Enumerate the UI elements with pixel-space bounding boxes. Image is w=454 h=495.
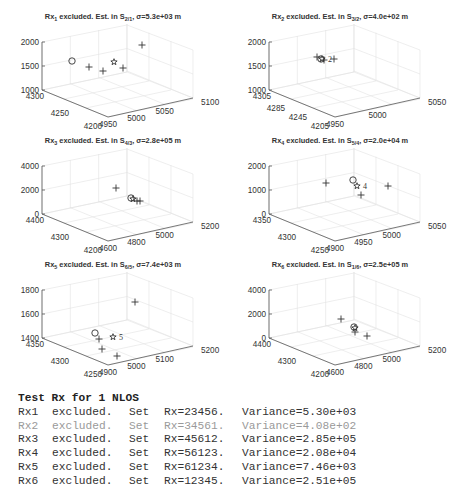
status-text: excluded.	[52, 461, 129, 475]
plot-3d-axes: 2000150010004305428542454205495050005050…	[227, 0, 454, 124]
axis-lines	[269, 42, 420, 117]
status-text: excluded.	[52, 447, 129, 461]
receiver-marker	[364, 333, 371, 340]
set-value: Rx=34561.	[164, 420, 242, 434]
y-tick-label: 4305	[253, 92, 272, 101]
z-tick-label: 1500	[248, 62, 267, 71]
plot-panel-rx5: 1800160014004350430042504900500051005200…	[0, 248, 227, 372]
z-tick-label: 1600	[21, 310, 40, 319]
x-tick-label: 4800	[127, 238, 146, 247]
set-keyword: Set	[129, 406, 164, 420]
x-tick-label: 4950	[354, 238, 373, 247]
panel-title: Rx5 excluded. Est. in S6/5, σ=7.4e+03 m	[45, 260, 182, 270]
console-rows: Rx1excluded.SetRx=23456.Variance=5.30e+0…	[18, 406, 448, 489]
receiver-marker	[96, 336, 103, 343]
x-tick-label: 5000	[127, 114, 146, 123]
x-tick-label: 5000	[156, 231, 175, 240]
z-tick-label: 4000	[21, 162, 40, 171]
rx-label: Rx5	[18, 461, 52, 475]
set-keyword: Set	[129, 420, 164, 434]
set-keyword: Set	[129, 475, 164, 489]
x-tick-label: 4800	[354, 362, 373, 371]
z-tick-label: 2000	[21, 38, 40, 47]
receiver-marker	[314, 54, 321, 61]
x-tick-label: 5000	[127, 362, 146, 371]
receiver-marker	[385, 183, 392, 190]
receiver-marker	[114, 353, 121, 360]
plot-panel-rx3: 4000200004400430042004600480050005200Rx3…	[0, 124, 227, 248]
status-text: excluded.	[52, 420, 129, 434]
variance-value: Variance=4.08e+02	[242, 420, 356, 434]
console-row: Rx3excluded.SetRx=45612.Variance=2.85e+0…	[18, 433, 448, 447]
axis-lines	[42, 166, 193, 241]
set-keyword: Set	[129, 461, 164, 475]
variance-value: Variance=5.30e+03	[242, 406, 356, 420]
y-tick-label: 4300	[278, 357, 297, 366]
receiver-marker	[86, 64, 93, 71]
plot-panel-rx1: 2000150010004300425042004950500050505100…	[0, 0, 227, 124]
x-tick-label: 4600	[326, 368, 345, 377]
plot-3d-axes: 4000200004400430042004600480050005200Rx3…	[0, 124, 227, 248]
axis-lines	[269, 290, 420, 365]
set-value: Rx=56123.	[164, 447, 242, 461]
plot-3d-axes: 2000100004350430042504900495050005050Rx4…	[227, 124, 454, 248]
y-tick-label: 4300	[26, 92, 45, 101]
y-tick-label: 4300	[51, 233, 70, 242]
receiver-marker	[137, 198, 144, 205]
variance-value: Variance=7.46e+03	[242, 461, 356, 475]
z-tick-label: 1500	[21, 62, 40, 71]
receiver-marker	[358, 192, 365, 199]
source-marker	[92, 330, 98, 336]
console-output: Test Rx for 1 NLOS Rx1excluded.SetRx=234…	[18, 392, 448, 489]
receiver-marker	[338, 316, 345, 323]
console-row: Rx2excluded.SetRx=34561.Variance=4.08e+0…	[18, 420, 448, 434]
x-tick-label: 5100	[156, 355, 175, 364]
x-tick-label: 5000	[368, 111, 387, 120]
receiver-marker	[139, 42, 146, 49]
variance-value: Variance=2.85e+05	[242, 433, 356, 447]
axis-lines	[42, 42, 193, 117]
estimate-label: 5	[119, 333, 123, 342]
data-markers	[323, 177, 392, 199]
plot-panel-rx6: 4000200004400430042004600480050005200Rx6…	[227, 248, 454, 372]
source-marker	[350, 177, 356, 183]
y-tick-label: 4350	[26, 340, 45, 349]
y-tick-label: 4350	[253, 216, 272, 225]
set-keyword: Set	[129, 433, 164, 447]
receiver-marker	[100, 68, 107, 75]
estimate-label: 4	[363, 182, 367, 191]
status-text: excluded.	[52, 475, 129, 489]
plot-3d-axes: 1800160014004350430042504900500051005200…	[0, 248, 227, 372]
rx-label: Rx4	[18, 447, 52, 461]
set-value: Rx=61234.	[164, 461, 242, 475]
x-tick-label: 5000	[383, 355, 402, 364]
z-tick-label: 2000	[21, 186, 40, 195]
x-tick-label: 5000	[383, 231, 402, 240]
console-header: Test Rx for 1 NLOS	[18, 392, 448, 406]
plot-3d-axes: 4000200004400430042004600480050005200Rx6…	[227, 248, 454, 372]
axis-lines	[269, 166, 420, 241]
x-tick-label: 5050	[428, 98, 447, 107]
z-tick-label: 2000	[248, 310, 267, 319]
estimate-marker	[111, 59, 117, 65]
receiver-marker	[132, 299, 139, 306]
panel-title: Rx3 excluded. Est. in S4/3, σ=2.8e+05 m	[45, 136, 182, 146]
estimate-label: 2	[328, 55, 332, 64]
y-tick-label: 4300	[278, 233, 297, 242]
console-row: Rx5excluded.SetRx=61234.Variance=7.46e+0…	[18, 461, 448, 475]
panel-title: Rx6 excluded. Est. in S1/6, σ=2.5e+05 m	[272, 260, 409, 270]
y-tick-label: 4250	[51, 109, 70, 118]
receiver-marker	[99, 346, 106, 353]
panel-title: Rx1 excluded. Est. in S2/1, σ=5.3e+03 m	[45, 12, 182, 22]
set-value: Rx=23456.	[164, 406, 242, 420]
plot-panel-rx2: 2000150010004305428542454205495050005050…	[227, 0, 454, 124]
console-row: Rx6excluded.SetRx=12345.Variance=2.51e+0…	[18, 475, 448, 489]
console-row: Rx4excluded.SetRx=56123.Variance=2.08e+0…	[18, 447, 448, 461]
receiver-marker	[323, 180, 330, 187]
rx-label: Rx3	[18, 433, 52, 447]
x-tick-label: 5200	[428, 346, 447, 355]
console-row: Rx1excluded.SetRx=23456.Variance=5.30e+0…	[18, 406, 448, 420]
panel-title: Rx2 excluded. Est. in S3/2, σ=4.0e+02 m	[272, 12, 409, 22]
variance-value: Variance=2.08e+04	[242, 447, 356, 461]
z-tick-label: 4000	[248, 286, 267, 295]
